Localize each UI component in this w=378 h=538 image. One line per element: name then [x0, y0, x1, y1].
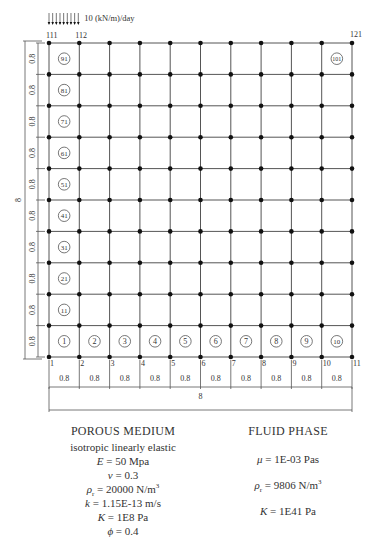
element-number: 11: [61, 307, 68, 315]
node-dot: [259, 166, 264, 171]
node-dot: [350, 135, 355, 140]
mesh-diagram: 10 (kN/m)/day 12345678910112131415161718…: [0, 0, 378, 420]
node-dot: [259, 198, 264, 203]
node-dot: [289, 41, 294, 46]
horizontal-dimension-value: 0.8: [59, 374, 69, 383]
node-dot: [77, 104, 82, 109]
element-number: 101: [332, 56, 341, 62]
vertical-dimension-value: 0.8: [28, 336, 37, 346]
horizontal-dimension-value: 0.8: [211, 374, 221, 383]
node-dot: [319, 41, 324, 46]
node-number: 11: [353, 359, 361, 368]
node-dot: [168, 72, 173, 77]
node-dot: [77, 198, 82, 203]
value-nu: = 0.3: [113, 469, 138, 481]
node-dot: [289, 72, 294, 77]
node-dot: [47, 166, 52, 171]
node-dot: [168, 323, 173, 328]
node-dot: [350, 261, 355, 266]
node-number: 4: [141, 359, 145, 368]
node-dot: [259, 104, 264, 109]
node-dot: [229, 166, 234, 171]
node-dot: [77, 229, 82, 234]
node-dot: [350, 229, 355, 234]
solid-unit-weight: ρr = 20000 N/m3: [48, 482, 198, 496]
node-dot: [319, 166, 324, 171]
load-arrow-head: [62, 22, 65, 25]
element-number: 51: [61, 181, 69, 189]
node-dot: [198, 135, 203, 140]
element-number: 3: [123, 337, 127, 346]
node-dot: [77, 323, 82, 328]
node-dot: [350, 292, 355, 297]
node-dot: [77, 292, 82, 297]
node-dot: [198, 72, 203, 77]
node-dot: [319, 229, 324, 234]
node-dot: [198, 229, 203, 234]
vertical-dimension-value: 0.8: [28, 274, 37, 284]
horizontal-dimension-value: 0.8: [89, 374, 99, 383]
element-number: 4: [153, 337, 157, 346]
horizontal-total-value: 8: [199, 392, 203, 401]
node-dot: [319, 135, 324, 140]
node-dot: [350, 323, 355, 328]
element-number: 41: [61, 212, 69, 220]
vertical-dimension-value: 0.8: [28, 305, 37, 315]
node-dot: [319, 261, 324, 266]
vertical-total-value: 8: [14, 198, 23, 202]
element-number: 6: [214, 337, 218, 346]
element-number: 10: [333, 338, 341, 346]
node-dot: [77, 261, 82, 266]
node-dot: [168, 166, 173, 171]
dimension-lines: 0.80.80.80.80.80.80.80.80.80.880.80.80.8…: [14, 41, 352, 412]
node-dot: [198, 323, 203, 328]
node-dot: [107, 323, 112, 328]
node-dot: [319, 198, 324, 203]
element-number: 8: [274, 337, 278, 346]
node-dot: [229, 41, 234, 46]
distributed-load: 10 (kN/m)/day: [48, 13, 136, 25]
horizontal-dimension-value: 0.8: [302, 374, 312, 383]
fluid-unit-weight: ρr = 9806 N/m3: [208, 478, 368, 492]
node-dot: [229, 229, 234, 234]
node-dot: [289, 198, 294, 203]
node-number: 2: [80, 359, 84, 368]
node-dot: [107, 229, 112, 234]
node-dot: [289, 261, 294, 266]
node-dot: [319, 72, 324, 77]
node-dot: [47, 104, 52, 109]
element-number: 21: [61, 275, 69, 283]
node-dot: [47, 261, 52, 266]
node-dot: [198, 198, 203, 203]
load-arrow-head: [55, 22, 58, 25]
node-dot: [319, 104, 324, 109]
symbol-bulk-k: K: [98, 511, 105, 523]
horizontal-dimension-value: 0.8: [271, 374, 281, 383]
node-dot: [107, 292, 112, 297]
node-dot: [47, 229, 52, 234]
node-dot: [107, 261, 112, 266]
node-dot: [77, 166, 82, 171]
node-dot: [229, 292, 234, 297]
node-dot: [138, 41, 143, 46]
node-dot: [77, 41, 82, 46]
youngs-modulus: E = 50 Mpa: [48, 454, 198, 468]
node-dot: [259, 292, 264, 297]
node-number: 5: [171, 359, 175, 368]
node-dot: [229, 104, 234, 109]
node-dot: [350, 104, 355, 109]
element-number: 61: [61, 150, 69, 158]
porous-medium-title: POROUS MEDIUM: [48, 424, 198, 438]
element-number: 71: [61, 118, 69, 126]
horizontal-dimension-value: 0.8: [120, 374, 130, 383]
load-arrow-head: [73, 22, 76, 25]
node-dot: [289, 323, 294, 328]
node-dot: [198, 41, 203, 46]
load-arrow-head: [77, 22, 80, 25]
node-number: 1: [50, 359, 54, 368]
node-dot: [229, 261, 234, 266]
vertical-dimension-value: 0.8: [28, 179, 37, 189]
node-dot: [168, 261, 173, 266]
vertical-dimension-value: 0.8: [28, 242, 37, 252]
node-dot: [289, 229, 294, 234]
